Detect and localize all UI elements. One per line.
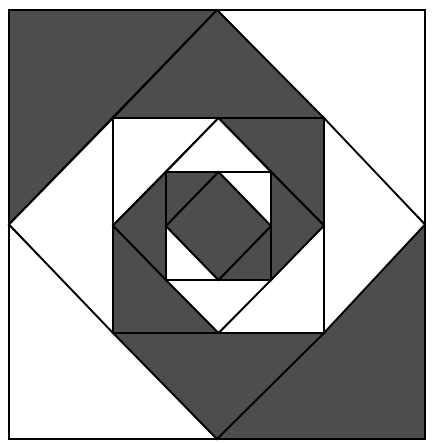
quilt-pattern-svg <box>0 0 433 444</box>
quilt-pattern-figure <box>0 0 433 444</box>
